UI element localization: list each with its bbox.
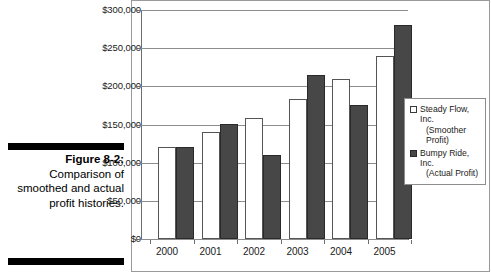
legend-item-2[interactable]: Bumpy Ride, Inc.(Actual Profit) [410, 148, 481, 179]
chart-panel: $0$50,000$100,000$150,000$200,000$250,00… [131, 0, 490, 272]
y-axis-tick-labels: $0$50,000$100,000$150,000$200,000$250,00… [77, 10, 141, 239]
legend-item-label: Steady Flow, Inc.(Smoother Profit) [420, 104, 481, 146]
y-axis-tick-label: $150,000 [79, 120, 141, 130]
bar-2002-series1[interactable] [245, 118, 263, 239]
x-axis-tick-mark [411, 240, 412, 244]
x-axis-tick-label-2000: 2000 [145, 246, 189, 258]
bar-group-2001 [202, 10, 238, 239]
y-axis-tick-mark [135, 10, 140, 11]
y-axis-tick-label: $0 [79, 234, 141, 244]
legend-swatch-icon [410, 106, 417, 113]
chart-legend: Steady Flow, Inc.(Smoother Profit)Bumpy … [404, 98, 486, 185]
bar-2001-series2[interactable] [220, 124, 238, 239]
x-axis-tick-mark [368, 240, 369, 244]
x-axis-tick-mark [237, 240, 238, 244]
x-axis-tick-mark [324, 240, 325, 244]
bar-group-2004 [332, 10, 368, 239]
y-axis-tick-mark [135, 125, 140, 126]
y-axis-tick-mark [135, 163, 140, 164]
y-axis-tick-mark [135, 239, 140, 240]
y-axis-tick-label: $50,000 [79, 196, 141, 206]
bar-2003-series1[interactable] [289, 99, 307, 239]
bar-2000-series2[interactable] [176, 147, 194, 239]
x-axis-tick-mark [150, 240, 151, 244]
legend-item-sublabel: (Smoother Profit) [420, 125, 481, 146]
bar-group-2003 [289, 10, 325, 239]
x-axis-tick-label-2001: 2001 [189, 246, 233, 258]
y-axis-tick-mark [135, 201, 140, 202]
caption-rule-bottom [8, 258, 124, 265]
legend-item-sublabel: (Actual Profit) [420, 168, 481, 178]
legend-item-1[interactable]: Steady Flow, Inc.(Smoother Profit) [410, 104, 481, 146]
x-axis-tick-mark [281, 240, 282, 244]
bar-2004-series2[interactable] [350, 105, 368, 239]
y-axis-tick-mark [135, 86, 140, 87]
legend-swatch-icon [410, 150, 417, 157]
x-axis-tick-mark [194, 240, 195, 244]
bar-2003-series2[interactable] [307, 75, 325, 239]
bar-2001-series1[interactable] [202, 132, 220, 239]
y-axis-tick-label: $100,000 [79, 158, 141, 168]
y-axis-tick-label: $200,000 [79, 81, 141, 91]
x-axis-tick-label-2002: 2002 [232, 246, 276, 258]
bar-2004-series1[interactable] [332, 79, 350, 239]
bar-group-2000 [158, 10, 194, 239]
bar-group-2002 [245, 10, 281, 239]
bar-2002-series2[interactable] [263, 155, 281, 239]
bar-2005-series1[interactable] [376, 56, 394, 239]
plot-area: $0$50,000$100,000$150,000$200,000$250,00… [141, 10, 408, 239]
y-axis-tick-label: $250,000 [79, 43, 141, 53]
y-axis-tick-label: $300,000 [79, 5, 141, 15]
x-axis-tick-label-2005: 2005 [363, 246, 407, 258]
y-axis-tick-mark [135, 48, 140, 49]
bar-2000-series1[interactable] [158, 147, 176, 239]
x-axis-tick-label-2003: 2003 [276, 246, 320, 258]
x-axis-tick-label-2004: 2004 [319, 246, 363, 258]
legend-item-label: Bumpy Ride, Inc.(Actual Profit) [420, 148, 481, 179]
